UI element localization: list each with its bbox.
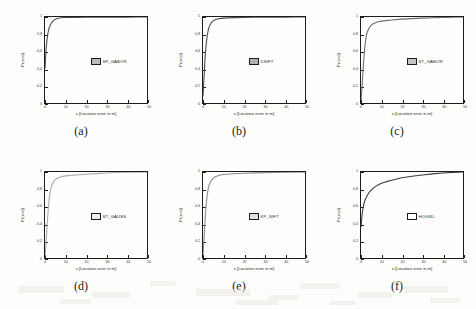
y-axis-label: Pr(x<d): [178, 208, 183, 222]
legend-swatch-icon: [249, 58, 259, 65]
x-tick-label: 0: [360, 261, 362, 265]
y-tick-label: 0.6: [195, 50, 200, 54]
x-tick-label: 0: [44, 106, 46, 110]
x-tick-label: 30: [263, 261, 267, 265]
y-axis-label: Pr(x<d): [336, 208, 341, 222]
scan-artifact: [150, 281, 176, 286]
y-axis-label: Pr(x<d): [20, 53, 25, 67]
figure-cdf-grid: Pr(x<d) x [Location error in m] 01020304…: [0, 0, 476, 309]
legend-label: ST_GAUSS: [103, 214, 127, 219]
x-tick-label: 20: [85, 106, 89, 110]
subplot-caption: (a): [2, 124, 160, 139]
scan-artifact: [60, 299, 90, 304]
y-tick-label: 0: [40, 103, 42, 107]
y-tick-label: 0: [198, 258, 200, 262]
x-tick-mark: [464, 100, 465, 103]
y-tick-label: 1: [356, 15, 358, 19]
plot-area: 0102030405000.20.40.60.81ST_GABOR: [360, 16, 464, 104]
y-tick-label: 0.8: [37, 33, 42, 37]
x-tick-mark: [306, 100, 307, 103]
subplot-caption: (b): [160, 124, 318, 139]
y-tick-mark: [361, 259, 364, 260]
y-tick-label: 0.8: [37, 188, 42, 192]
y-tick-label: 0.4: [195, 223, 200, 227]
plot-area: 0102030405000.20.40.60.81KP_SIFT: [202, 171, 306, 259]
legend-swatch-icon: [407, 213, 417, 220]
x-axis-label: x [Location error in m]: [76, 266, 117, 271]
legend-label: DSIFT: [261, 59, 274, 64]
y-tick-label: 0.8: [195, 33, 200, 37]
plot-panel: Pr(x<d) x [Location error in m] 01020304…: [318, 159, 476, 277]
y-tick-label: 0.6: [37, 205, 42, 209]
plot-panel: Pr(x<d) x [Location error in m] 01020304…: [160, 4, 318, 122]
plot-area: 0102030405000.20.40.60.81ST_GAUSS: [44, 171, 148, 259]
y-tick-mark: [45, 104, 48, 105]
x-tick-label: 10: [222, 106, 226, 110]
subplot-caption: (f): [318, 279, 476, 294]
legend-label: HOG3D: [419, 214, 435, 219]
y-tick-label: 1: [40, 170, 42, 174]
scan-artifact: [430, 298, 460, 303]
x-tick-label: 40: [126, 261, 130, 265]
x-tick-label: 20: [401, 261, 405, 265]
x-tick-label: 10: [380, 106, 384, 110]
legend: ST_GAUSS: [91, 213, 126, 220]
y-tick-label: 0.4: [37, 223, 42, 227]
x-tick-label: 40: [284, 261, 288, 265]
y-tick-label: 0.2: [353, 86, 358, 90]
legend-label: ST_GABOR: [419, 59, 443, 64]
y-tick-mark: [361, 104, 364, 105]
x-tick-label: 0: [202, 106, 204, 110]
legend: ST_GABOR: [407, 58, 443, 65]
x-tick-label: 20: [243, 106, 247, 110]
x-tick-label: 0: [360, 106, 362, 110]
y-tick-label: 1: [356, 170, 358, 174]
y-tick-label: 0: [356, 103, 358, 107]
y-axis-label: Pr(x<d): [336, 53, 341, 67]
legend-swatch-icon: [407, 58, 417, 65]
x-tick-mark: [148, 255, 149, 258]
legend: DSIFT: [249, 58, 273, 65]
y-tick-label: 0.6: [37, 50, 42, 54]
y-tick-label: 0.2: [195, 86, 200, 90]
plot-area: 0102030405000.20.40.60.81SF_GABOR: [44, 16, 148, 104]
scan-artifact: [18, 286, 64, 293]
y-axis-label: Pr(x<d): [20, 208, 25, 222]
legend-label: KP_SIFT: [261, 214, 279, 219]
x-tick-label: 30: [421, 261, 425, 265]
y-tick-label: 0.2: [195, 241, 200, 245]
scan-artifact: [358, 292, 392, 298]
plot-panel: Pr(x<d) x [Location error in m] 01020304…: [160, 159, 318, 277]
y-axis-label: Pr(x<d): [178, 53, 183, 67]
scan-artifact: [236, 300, 278, 305]
scan-artifact: [300, 283, 340, 289]
x-axis-label: x [Location error in m]: [392, 266, 433, 271]
subplot-caption: (c): [318, 124, 476, 139]
x-axis-label: x [Location error in m]: [234, 111, 275, 116]
x-tick-label: 20: [243, 261, 247, 265]
y-tick-label: 0: [356, 258, 358, 262]
x-tick-mark: [464, 255, 465, 258]
x-tick-label: 50: [305, 261, 309, 265]
x-tick-label: 20: [85, 261, 89, 265]
subplot-b: Pr(x<d) x [Location error in m] 01020304…: [160, 0, 318, 154]
y-tick-label: 0.2: [353, 241, 358, 245]
legend: SF_GABOR: [91, 58, 127, 65]
y-tick-label: 0.6: [353, 205, 358, 209]
scan-artifact: [196, 289, 250, 296]
x-tick-mark: [148, 100, 149, 103]
x-tick-label: 50: [147, 261, 151, 265]
y-tick-label: 0.4: [353, 223, 358, 227]
y-tick-label: 0.2: [37, 86, 42, 90]
x-tick-label: 40: [442, 106, 446, 110]
y-tick-mark: [203, 259, 206, 260]
x-tick-label: 30: [105, 106, 109, 110]
x-tick-mark: [306, 255, 307, 258]
y-tick-label: 0.4: [353, 68, 358, 72]
y-tick-label: 1: [198, 15, 200, 19]
plot-panel: Pr(x<d) x [Location error in m] 01020304…: [2, 159, 160, 277]
y-tick-mark: [45, 259, 48, 260]
legend-swatch-icon: [91, 213, 101, 220]
plot-area: 0102030405000.20.40.60.81HOG3D: [360, 171, 464, 259]
figure-row-top: Pr(x<d) x [Location error in m] 01020304…: [0, 0, 476, 154]
